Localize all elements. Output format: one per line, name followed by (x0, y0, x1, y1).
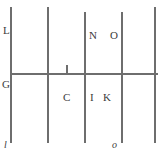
line-diagram-figure: LNOGCIKlo (0, 0, 163, 150)
label-C: C (63, 92, 70, 103)
label-G: G (2, 79, 10, 90)
diagram-canvas (0, 0, 163, 150)
label-O: O (110, 30, 118, 41)
label-K: K (103, 92, 111, 103)
label-l: l (4, 139, 7, 150)
label-I: I (90, 92, 94, 103)
label-o: o (112, 139, 117, 150)
label-L: L (3, 25, 10, 36)
label-N: N (89, 30, 97, 41)
vertical-line-group (11, 7, 155, 143)
